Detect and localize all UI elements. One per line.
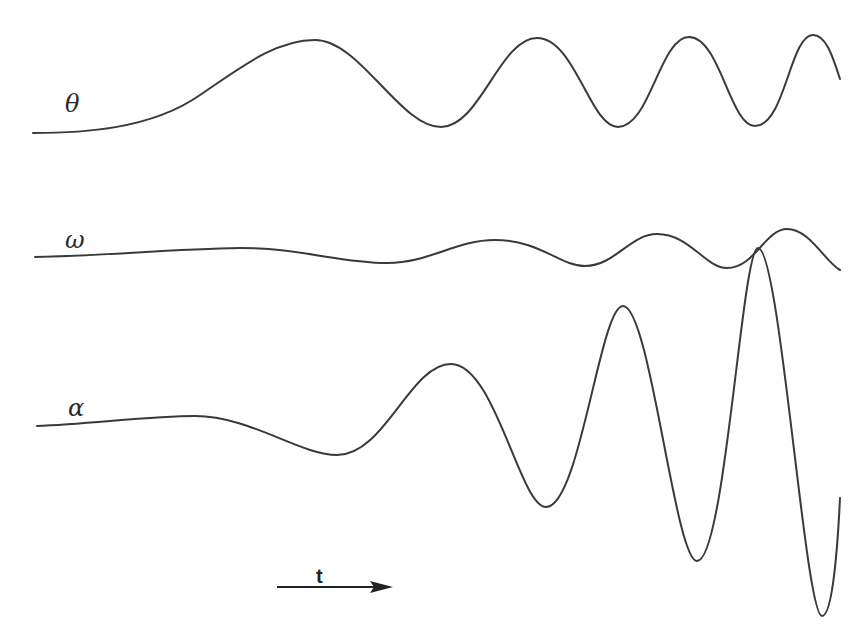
signal-diagram-canvas <box>0 0 863 639</box>
theta-curve <box>33 35 840 133</box>
omega-curve <box>35 229 840 270</box>
theta-label: θ <box>65 92 79 116</box>
time-axis-label: t <box>316 566 323 586</box>
alpha-curve <box>37 248 840 616</box>
alpha-label: α <box>68 396 84 420</box>
omega-label: ω <box>65 228 85 252</box>
time-arrow-icon <box>277 581 393 593</box>
